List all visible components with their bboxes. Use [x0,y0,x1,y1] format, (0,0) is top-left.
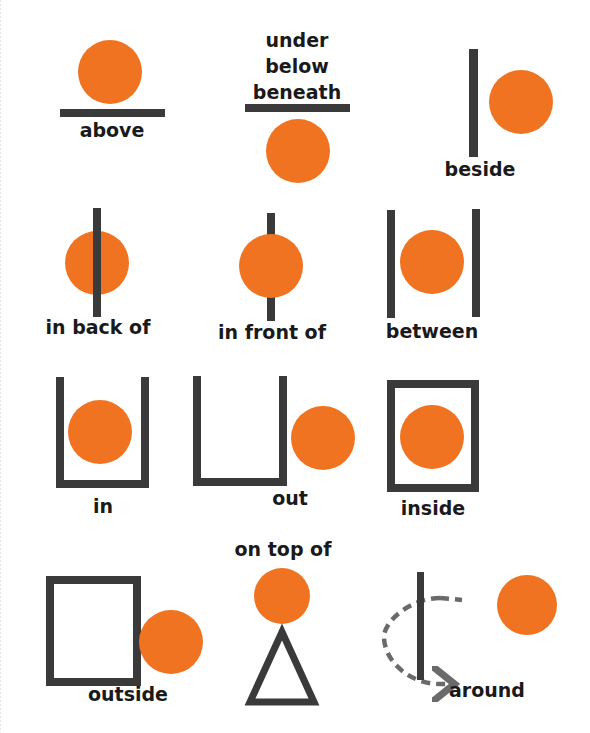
container-open-top [197,376,283,482]
cell-between: between [386,209,480,342]
surface-bar [60,109,165,117]
triangle [250,632,314,702]
dashed-connector [440,598,462,600]
label-out: out [272,487,308,509]
cell-in-back-of: in back of [46,208,152,338]
label-inside: inside [401,497,465,519]
ball [400,405,464,469]
pole-bar [93,208,101,317]
wall-bar-right [472,209,480,317]
label-outside: outside [88,683,168,705]
wall-bar [469,49,478,157]
cell-above: above [60,40,165,141]
cell-around: around [384,572,557,701]
label-under: under [266,29,330,51]
wall-bar-left [387,210,395,318]
ball [254,568,310,624]
dashed-circle-arrow [384,598,450,684]
cell-out: out [197,376,355,509]
label-between: between [386,320,478,342]
label-above: above [80,119,145,141]
ball [239,234,303,298]
label-in-front-of: in front of [218,321,327,343]
closed-box [50,580,137,682]
label-in-back-of: in back of [46,316,152,338]
cell-outside: outside [50,580,203,705]
label-in: in [93,495,113,517]
pole-bar [417,572,424,680]
ball [78,40,142,104]
ball [139,610,203,674]
ball [497,575,557,635]
ball [291,406,355,470]
label-beside: beside [445,158,516,180]
ball [489,70,553,134]
cell-on-top-of: on top of [235,538,333,702]
cell-beside: beside [445,49,553,180]
cell-in-front-of: in front of [218,213,327,343]
label-around: around [449,679,525,701]
label-beneath: beneath [253,81,341,103]
surface-bar [245,104,350,112]
ball [400,230,464,294]
label-below: below [265,55,329,77]
ball [266,119,330,183]
cell-in: in [60,377,145,517]
ball [68,400,132,464]
prepositions-diagram: above under below beneath beside in back… [0,0,590,733]
label-on-top-of: on top of [235,538,333,560]
cell-inside: inside [391,384,475,519]
cell-under: under below beneath [245,29,350,183]
